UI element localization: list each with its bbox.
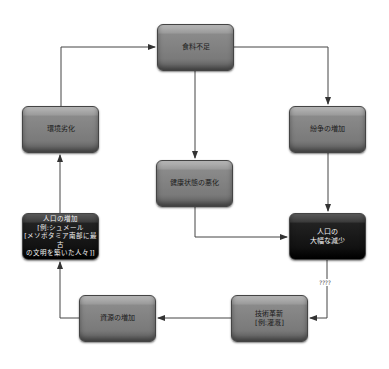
node-population-decline: 人口の 大幅な減少	[289, 213, 366, 260]
node-food-shortage: 食料不足	[157, 24, 234, 71]
node-label: 健康状態の悪化	[170, 179, 219, 188]
node-label: 人口の 大幅な減少	[310, 228, 345, 246]
edge-decline-to-innovation	[310, 260, 327, 318]
node-label: 技術革新 [例:灌漑]	[255, 310, 284, 328]
node-label: 紛争の増加	[310, 125, 345, 134]
unknown-edge-label: ????	[318, 279, 332, 286]
node-label: 環境劣化	[47, 125, 75, 134]
node-population-increase: 人口の増加 [例:シュメール [メソポタミア南部に最古 の文明を築いた人々]]	[22, 213, 99, 260]
node-resource-increase: 資源の増加	[79, 295, 156, 342]
edge-health-to-decline	[195, 207, 287, 237]
node-label: 資源の増加	[100, 314, 135, 323]
node-health-deterioration: 健康状態の悪化	[156, 160, 233, 207]
edge-resource-to-population	[60, 262, 79, 318]
node-label: 食料不足	[182, 43, 210, 52]
node-environmental-degradation: 環境劣化	[22, 106, 99, 153]
node-technical-innovation: 技術革新 [例:灌漑]	[231, 295, 308, 342]
edge-food-to-conflict	[233, 47, 328, 104]
node-label: 人口の増加 [例:シュメール [メソポタミア南部に最古 の文明を築いた人々]]	[23, 215, 98, 258]
node-conflict-increase: 紛争の増加	[289, 106, 366, 153]
edge-env-to-food	[61, 47, 155, 106]
